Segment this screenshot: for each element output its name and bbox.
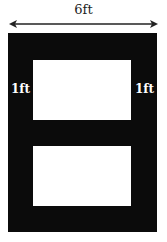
top-window-opening bbox=[33, 60, 131, 120]
bottom-window-opening bbox=[33, 146, 131, 206]
width-label: 6ft bbox=[0, 3, 167, 17]
right-border-label: 1ft bbox=[135, 82, 154, 96]
left-border-label: 1ft bbox=[11, 82, 30, 96]
black-frame: 1ft 1ft bbox=[8, 33, 157, 232]
